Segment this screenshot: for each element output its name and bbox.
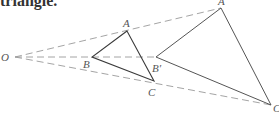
label-o: O <box>1 51 9 63</box>
ray-oa <box>15 8 221 57</box>
label-c-prime: C <box>273 102 279 114</box>
triangle-abc <box>92 31 154 81</box>
label-a-prime: A <box>217 0 225 7</box>
label-a: A <box>122 17 130 29</box>
label-b: B <box>83 58 90 70</box>
triangle-a-prime-b-prime-c-prime <box>156 8 271 105</box>
label-c: C <box>148 86 156 98</box>
label-b-prime: B′ <box>152 62 162 74</box>
ray-oc <box>15 57 271 105</box>
dilation-diagram: O A B C A B′ C <box>0 0 279 115</box>
